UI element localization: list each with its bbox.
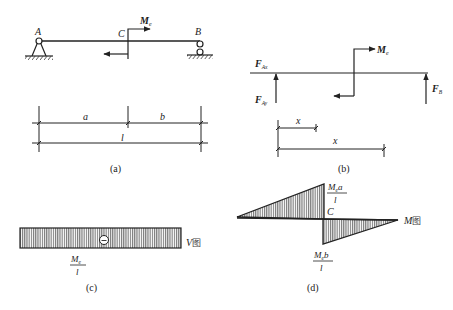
caption-b: (b) [338,163,350,175]
dim-label-l: l [121,132,124,143]
x-dimension-lines [276,120,386,157]
dim-label-a: a [83,111,88,122]
label-FAy: FAy [254,94,268,106]
moment-diagram-negative [323,219,398,244]
moment-diagram-label: M图 [403,215,421,226]
svg-text:l: l [76,267,79,277]
shear-diagram-label: V图 [186,237,201,248]
moment-diagram-positive [237,184,324,219]
label-point-B: B [195,26,201,37]
label-moment-Me-b: Me [376,44,389,56]
roller-support-B [187,41,213,59]
panel-b: FAx FAy FB Me x x [250,44,443,175]
label-moment-Me: Me [139,15,152,27]
shear-value-fraction: Me l [70,254,86,277]
moment-top-value-fraction: Mea l [327,182,347,205]
caption-c: (c) [86,282,97,294]
panel-c: V图 Me l (c) [20,228,201,294]
svg-text:Meb: Meb [313,250,329,261]
svg-text:Mea: Mea [327,182,343,193]
svg-text:l: l [334,195,337,205]
moment-bottom-value-fraction: Meb l [313,250,333,273]
panel-d: C M图 Mea l Meb l (d) [237,182,421,294]
dim-label-b: b [160,111,165,122]
label-FAx: FAx [254,58,268,70]
label-point-C: C [118,28,125,39]
caption-d: (d) [307,282,319,294]
svg-text:l: l [320,263,323,273]
moment-couple-icon [104,29,150,59]
panel-a: A B C Me a [25,15,213,175]
negative-sign-icon [100,236,109,245]
label-FB: FB [431,83,443,95]
figure-canvas: A B C Me a [0,0,453,310]
svg-text:Me: Me [70,254,82,265]
dimension-lines [32,106,208,152]
caption-a: (a) [110,163,121,175]
label-point-C-d: C [327,206,334,217]
label-point-A: A [34,26,42,37]
dim-label-x2: x [332,135,338,146]
dim-label-x1: x [295,115,301,126]
